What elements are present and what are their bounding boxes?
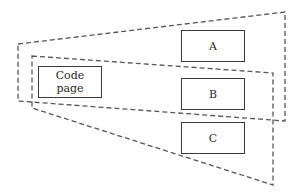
- box-a: A: [181, 30, 245, 62]
- box-b-label: B: [209, 88, 217, 101]
- box-c-label: C: [209, 132, 217, 145]
- code-page-box: Code page: [38, 66, 102, 98]
- code-page-label: Code page: [56, 69, 85, 95]
- box-c: C: [181, 122, 245, 154]
- box-a-label: A: [209, 40, 217, 53]
- box-b: B: [181, 78, 245, 110]
